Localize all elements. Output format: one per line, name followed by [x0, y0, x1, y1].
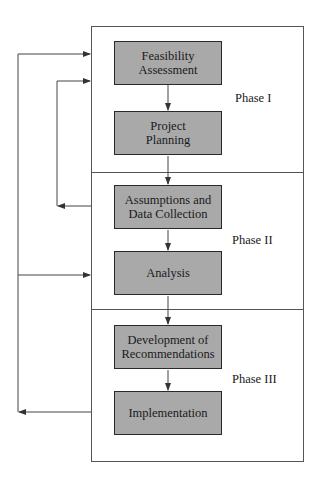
step-feasibility-assessment: Feasibility Assessment	[114, 41, 222, 85]
process-flow-diagram: Feasibility Assessment Project Planning …	[0, 0, 318, 485]
step-assumptions-data-collection: Assumptions and Data Collection	[114, 185, 222, 229]
phase-label-1: Phase I	[235, 91, 271, 106]
step-analysis: Analysis	[114, 251, 222, 295]
step-project-planning: Project Planning	[114, 111, 222, 155]
step-implementation: Implementation	[114, 391, 222, 435]
phase-label-2: Phase II	[232, 233, 273, 248]
step-development-of-recommendations: Development of Recommendations	[114, 325, 222, 369]
phase-label-3: Phase III	[232, 372, 277, 387]
